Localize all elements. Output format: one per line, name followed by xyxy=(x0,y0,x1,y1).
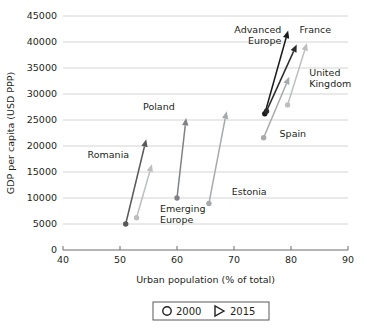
circle-outline-icon xyxy=(163,307,171,315)
gdp-vs-urbanization-scatter-chart: 0500010000150002000025000300003500040000… xyxy=(0,0,367,330)
chart-legend: 20002015 xyxy=(153,302,269,320)
arrow-head-2015-marker xyxy=(302,43,308,51)
point-2000-marker xyxy=(206,201,211,206)
y-tick-label-35000: 35000 xyxy=(27,62,57,73)
point-2000-marker xyxy=(123,221,128,226)
y-axis-tick-labels: 0500010000150002000025000300003500040000… xyxy=(27,10,57,255)
y-tick-label-20000: 20000 xyxy=(27,140,57,151)
arrow-head-2015-marker xyxy=(147,164,153,172)
x-axis-tick-labels: 405060708090 xyxy=(57,254,354,265)
point-2000-marker xyxy=(261,135,266,140)
x-tick-label-40: 40 xyxy=(57,254,69,265)
x-tick-label-50: 50 xyxy=(114,254,126,265)
arrow-head-2015-marker xyxy=(222,111,228,119)
point-2000-marker xyxy=(174,195,179,200)
axes-group xyxy=(63,246,348,250)
label-spain: Spain xyxy=(280,128,307,139)
legend-label-2015: 2015 xyxy=(230,306,255,317)
label-poland: Poland xyxy=(143,101,175,112)
arrow-head-2015-marker xyxy=(283,31,289,39)
legend-label-2000: 2000 xyxy=(176,306,201,317)
chart-container: 0500010000150002000025000300003500040000… xyxy=(0,0,367,330)
x-axis-title: Urban population (% of total) xyxy=(136,274,275,285)
x-tick-label-80: 80 xyxy=(285,254,297,265)
y-tick-label-30000: 30000 xyxy=(27,88,57,99)
triangle-right-icon xyxy=(215,306,224,316)
point-2000-marker xyxy=(134,215,139,220)
y-tick-label-40000: 40000 xyxy=(27,36,57,47)
arrow-shaft xyxy=(209,119,225,204)
label-united-kingdom: UnitedKingdom xyxy=(309,67,351,89)
y-tick-label-5000: 5000 xyxy=(33,218,57,229)
series-arrow-emerging-europe xyxy=(134,164,153,220)
arrow-shaft xyxy=(137,171,150,217)
arrow-shaft xyxy=(177,125,185,198)
y-axis-title: GDP per capita (USD PPP) xyxy=(5,72,16,194)
x-tick-label-70: 70 xyxy=(228,254,240,265)
data-point-labels: RomaniaEmergingEuropePolandEstoniaAdvanc… xyxy=(88,24,352,225)
y-tick-label-15000: 15000 xyxy=(27,166,57,177)
y-tick-label-10000: 10000 xyxy=(27,192,57,203)
series-arrow-france xyxy=(264,45,297,114)
label-france: France xyxy=(300,24,332,35)
y-tick-label-25000: 25000 xyxy=(27,114,57,125)
label-estonia: Estonia xyxy=(232,186,267,197)
x-tick-label-90: 90 xyxy=(342,254,354,265)
y-tick-label-45000: 45000 xyxy=(27,10,57,21)
series-arrow-estonia xyxy=(206,111,228,206)
series-arrow-united-kingdom xyxy=(285,43,308,108)
arrow-head-2015-marker xyxy=(182,118,188,126)
series-arrow-poland xyxy=(174,118,188,201)
label-emerging-europe: EmergingEurope xyxy=(160,203,206,225)
point-2000-marker xyxy=(264,108,269,113)
point-2000-marker xyxy=(285,102,290,107)
label-romania: Romania xyxy=(88,149,130,160)
x-tick-label-60: 60 xyxy=(171,254,183,265)
